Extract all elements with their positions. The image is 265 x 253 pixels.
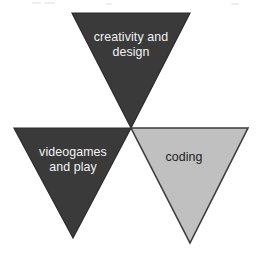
triangle-creativity-and-design[interactable] bbox=[72, 13, 190, 128]
scan-artifact-1 bbox=[32, 2, 41, 4]
diagram-canvas bbox=[0, 0, 265, 253]
triangle-coding[interactable] bbox=[131, 128, 248, 243]
scan-artifact-2 bbox=[44, 2, 55, 4]
triangle-diagram: creativity and design videogames and pla… bbox=[0, 0, 265, 253]
scan-artifact-4 bbox=[231, 3, 239, 5]
scan-artifact-3 bbox=[106, 3, 112, 5]
triangle-videogames-and-play[interactable] bbox=[14, 128, 131, 238]
